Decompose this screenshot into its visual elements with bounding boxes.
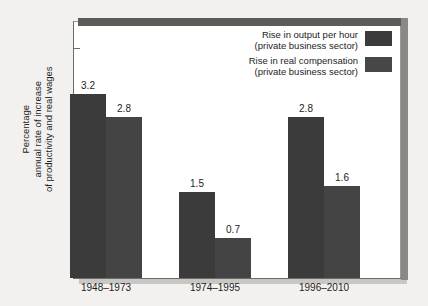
bar-value-label-g2-s0: 2.8 <box>286 104 326 114</box>
x-category-label-2: 1996–2010 <box>274 283 374 293</box>
bar-value-label-g1-s0: 1.5 <box>177 179 217 189</box>
y-axis-line <box>73 21 74 279</box>
legend: Rise in output per hour (private busines… <box>212 28 392 80</box>
y-tick-mark-4 <box>73 48 80 49</box>
legend-label-1: Rise in real compensation (private busin… <box>249 54 365 77</box>
bar-value-label-g2-s1: 1.6 <box>322 173 362 183</box>
bar-value-label-g1-s1: 0.7 <box>213 225 253 235</box>
bar-chart-figure: 4 3 2 1 0 Percentage annual rate of incr… <box>0 0 428 306</box>
y-tick-mark-2 <box>73 163 80 164</box>
bar-value-label-g0-s0: 3.2 <box>68 81 108 91</box>
plot-frame-right-band <box>401 18 408 280</box>
x-axis-line <box>73 278 401 279</box>
x-category-label-0: 1948–1973 <box>56 283 156 293</box>
legend-label-0: Rise in output per hour (private busines… <box>255 28 365 51</box>
y-tick-mark-1 <box>73 220 80 221</box>
legend-item-1: Rise in real compensation (private busin… <box>212 54 392 77</box>
legend-swatch-icon-0 <box>365 31 392 46</box>
legend-item-0: Rise in output per hour (private busines… <box>212 28 392 51</box>
x-category-label-1: 1974–1995 <box>165 283 265 293</box>
y-axis-title: Percentage annual rate of increase of pr… <box>20 29 55 229</box>
y-tick-mark-3 <box>73 105 80 106</box>
plot-frame-top-band <box>78 18 408 26</box>
legend-swatch-icon-1 <box>365 57 392 72</box>
bar-value-label-g0-s1: 2.8 <box>104 104 144 114</box>
